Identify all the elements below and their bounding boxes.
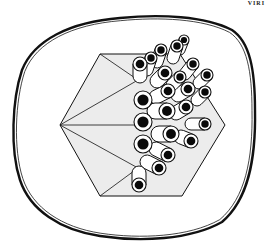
capsomer-hole <box>137 116 148 127</box>
capsomer-hole <box>147 54 154 61</box>
capsomer-hole <box>189 60 196 67</box>
capsomer <box>132 166 146 192</box>
capsomer <box>134 135 152 153</box>
capsomer-hole <box>164 87 173 96</box>
capsomer-hole <box>173 42 180 49</box>
capsomer <box>151 126 179 142</box>
capsomer-hole <box>137 138 148 149</box>
capsomer-hole <box>166 129 176 139</box>
capsomer-hole <box>137 94 148 105</box>
capsomer-hole <box>157 46 164 53</box>
capsomer <box>185 118 211 130</box>
capsomer-hole <box>203 71 210 78</box>
capsomer-hole <box>184 85 193 94</box>
capsomer-hole <box>162 106 172 116</box>
capsomer-hole <box>155 164 164 173</box>
capsomer <box>147 103 175 119</box>
capsomer-hole <box>136 60 145 69</box>
capsomer-hole <box>182 103 191 112</box>
capsomer-hole <box>201 88 208 95</box>
capsomer <box>133 57 147 83</box>
capsomer-hole <box>135 181 144 190</box>
capsomer-hole <box>201 120 208 127</box>
capsomer-hole <box>176 73 183 80</box>
capsomer <box>134 91 152 109</box>
capsomer-hole <box>187 137 196 146</box>
capsomer-hole <box>161 69 170 78</box>
capsomer-hole <box>164 151 173 160</box>
virus-diagram <box>0 0 269 252</box>
capsomer <box>134 113 152 131</box>
